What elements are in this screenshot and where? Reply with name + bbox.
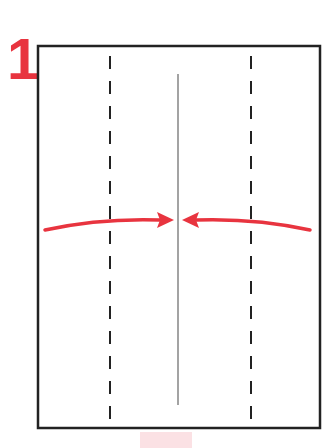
next-step-tab xyxy=(140,432,192,448)
fold-diagram xyxy=(0,0,336,448)
paper-sheet xyxy=(38,46,320,428)
